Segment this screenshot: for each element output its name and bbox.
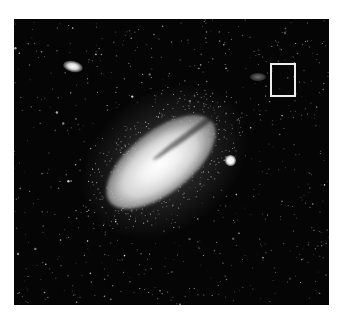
- highlight-rectangle: [270, 63, 296, 97]
- faint-object: [250, 73, 266, 81]
- satellite-galaxy-bright-round: [225, 155, 236, 166]
- galaxy-photograph: [14, 19, 329, 305]
